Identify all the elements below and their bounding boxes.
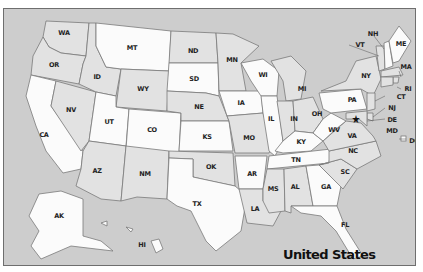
label-ut: UT [104,118,114,126]
us-map: ★ WA OR CA NV ID MT WY UT CO AZ NM ND SD… [4,9,415,265]
label-nc: NC [348,147,358,155]
label-ct: CT [397,93,406,101]
label-tn: TN [291,156,300,164]
label-ok: OK [206,163,217,171]
state-ct[interactable] [381,77,393,87]
label-mo: MO [243,134,255,142]
label-la: LA [251,205,260,213]
label-wv: WV [328,126,340,134]
label-ms: MS [268,185,279,193]
label-ca: CA [39,131,48,139]
label-ia: IA [238,99,245,107]
label-mi: MI [298,85,306,93]
label-wy: WY [137,85,149,93]
state-pa[interactable] [319,89,367,113]
label-ny: NY [361,72,371,80]
label-pa: PA [348,96,357,104]
label-sd: SD [189,75,199,83]
state-de[interactable] [367,113,373,121]
label-va: VA [347,132,356,140]
label-ks: KS [202,133,212,141]
label-il: IL [268,115,274,123]
state-ak[interactable] [29,191,113,259]
label-wi: WI [259,71,268,79]
us-map-frame: ★ WA OR CA NV ID MT WY UT CO AZ NM ND SD… [3,8,416,266]
label-dc: DC [409,137,415,145]
label-al: AL [291,183,300,191]
label-in: IN [290,115,297,123]
label-co: CO [147,126,157,134]
map-title: United States [283,247,376,262]
label-ar: AR [247,170,257,178]
label-md: MD [386,127,398,135]
label-mt: MT [127,44,138,52]
state-nj[interactable] [367,93,375,111]
label-nd: ND [188,47,199,55]
label-ak: AK [54,212,65,220]
label-nh: NH [368,30,378,38]
label-wa: WA [58,29,70,37]
label-sc: SC [341,168,350,176]
state-ri[interactable] [393,77,399,83]
state-dc[interactable] [401,136,406,141]
label-vt: VT [356,41,366,49]
label-ne: NE [194,103,203,111]
label-oh: OH [312,110,322,118]
label-nv: NV [66,106,76,114]
label-fl: FL [341,221,349,229]
state-hi[interactable] [101,221,163,253]
label-nj: NJ [388,104,395,112]
label-ma: MA [401,63,412,71]
label-de: DE [387,116,396,124]
label-tx: TX [193,200,202,208]
label-ga: GA [321,183,331,191]
label-ky: KY [296,138,306,146]
label-mn: MN [226,56,237,64]
label-or: OR [49,61,59,69]
star-icon: ★ [352,113,361,126]
label-hi: HI [138,241,145,249]
label-nm: NM [139,170,150,178]
label-id: ID [93,73,101,81]
label-ri: RI [405,85,412,93]
label-az: AZ [92,167,102,175]
label-me: ME [396,40,406,48]
